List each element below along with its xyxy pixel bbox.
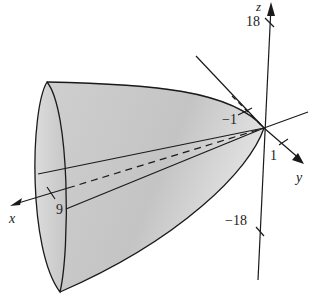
y-axis-arrowhead (292, 153, 304, 164)
axis-extension-right (264, 112, 308, 128)
x-axis-label: x (8, 211, 16, 226)
z-tick-top-label: 18 (246, 14, 260, 29)
x-axis-arrowhead (10, 198, 22, 206)
z-tick-bottom-label: −18 (225, 213, 247, 228)
y-axis-label: y (294, 170, 303, 185)
paraboloid-diagram: x 9 z 18 −18 y 1 −1 (0, 0, 312, 298)
z-axis (258, 6, 271, 280)
neg-y-tick-label: −1 (222, 112, 237, 127)
z-axis-arrowhead (267, 2, 275, 16)
z-axis-label: z (255, 0, 261, 14)
y-tick-label: 1 (270, 148, 277, 163)
x-tick-label: 9 (56, 202, 63, 217)
